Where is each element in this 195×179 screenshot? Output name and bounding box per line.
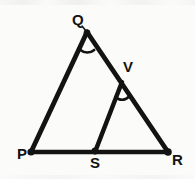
segment-pq: [31, 32, 87, 152]
vertex-label-q: Q: [72, 12, 84, 27]
vertex-dot-p: [27, 148, 34, 155]
triangle-pqr-strokes: [31, 32, 168, 152]
vertex-dot-r: [164, 148, 172, 156]
vertex-label-s: S: [90, 155, 100, 170]
segment-sv: [95, 82, 122, 152]
vertex-label-v: V: [123, 59, 133, 74]
angle-arc-v: [116, 97, 129, 100]
vertex-label-r: R: [172, 152, 183, 167]
segment-qr: [87, 32, 168, 152]
inner-segment-group: [95, 82, 122, 152]
vertex-label-p: P: [17, 146, 27, 161]
geometry-figure-canvas: Q V P S R: [0, 0, 195, 179]
triangle-diagram: [0, 0, 195, 179]
angle-arc-q: [81, 50, 95, 53]
vertex-dot-q: [84, 30, 91, 37]
